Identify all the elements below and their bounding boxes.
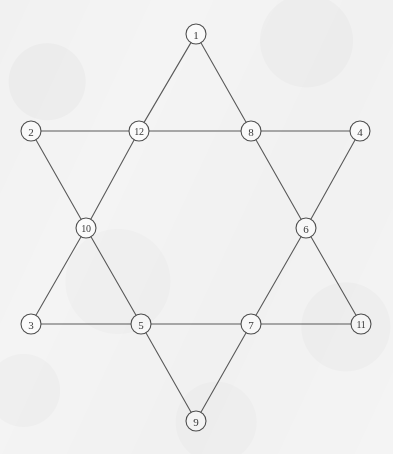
graph-node-5[interactable]: 5 xyxy=(131,314,151,334)
graph-node-11[interactable]: 11 xyxy=(351,314,371,334)
node-layer: 123456789101112 xyxy=(21,24,371,431)
graph-node-10[interactable]: 10 xyxy=(76,218,96,238)
node-label-2: 2 xyxy=(28,126,34,138)
graph-node-6[interactable]: 6 xyxy=(296,218,316,238)
graph-node-9[interactable]: 9 xyxy=(186,411,206,431)
graph-edge-1-12 xyxy=(144,43,191,123)
node-label-7: 7 xyxy=(248,319,254,331)
graph-node-7[interactable]: 7 xyxy=(241,314,261,334)
graph-edge-2-10 xyxy=(36,140,81,220)
graph-edge-5-9 xyxy=(146,333,191,413)
graph-edge-1-8 xyxy=(201,43,246,123)
node-label-10: 10 xyxy=(81,223,91,234)
graph-edge-7-9 xyxy=(201,333,246,413)
graph-edge-4-6 xyxy=(311,140,355,220)
graph-node-12[interactable]: 12 xyxy=(129,121,149,141)
graph-node-1[interactable]: 1 xyxy=(186,24,206,44)
graph-node-3[interactable]: 3 xyxy=(21,314,41,334)
node-label-6: 6 xyxy=(303,223,309,235)
node-label-3: 3 xyxy=(28,319,34,331)
node-label-11: 11 xyxy=(356,319,365,330)
graph-node-8[interactable]: 8 xyxy=(241,121,261,141)
graph-canvas: 123456789101112 xyxy=(0,0,393,454)
node-label-12: 12 xyxy=(134,126,144,137)
graph-edge-6-11 xyxy=(311,237,356,316)
node-label-8: 8 xyxy=(248,126,254,138)
node-label-5: 5 xyxy=(138,319,144,331)
graph-edge-10-3 xyxy=(36,237,81,316)
graph-edge-12-10 xyxy=(91,140,134,219)
graph-edge-8-6 xyxy=(256,140,301,220)
graph-edge-10-5 xyxy=(91,237,136,316)
graph-edge-6-7 xyxy=(256,237,301,316)
graph-node-2[interactable]: 2 xyxy=(21,121,41,141)
hexagram-graph: 123456789101112 xyxy=(0,0,393,454)
graph-node-4[interactable]: 4 xyxy=(350,121,370,141)
node-label-1: 1 xyxy=(193,29,199,41)
node-label-9: 9 xyxy=(193,416,199,428)
node-label-4: 4 xyxy=(357,126,363,138)
